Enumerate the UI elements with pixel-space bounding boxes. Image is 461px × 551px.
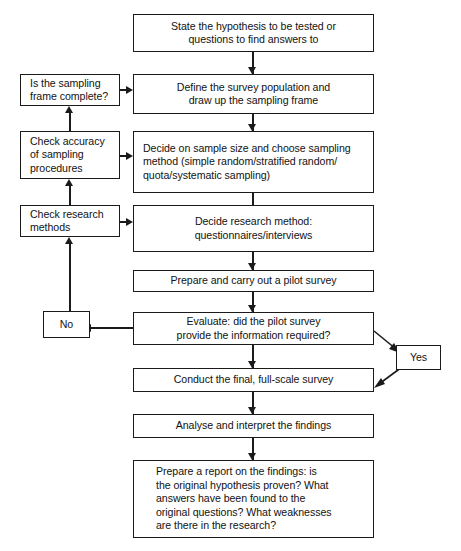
node-methods-check-line-2: methods bbox=[30, 221, 70, 234]
node-define-population-line-2: draw up the sampling frame bbox=[189, 94, 318, 107]
arrowhead-full-survey bbox=[248, 361, 256, 368]
node-accuracy-check-line-2: of sampling bbox=[30, 148, 84, 161]
node-research-method-line-2: questionnaires/interviews bbox=[195, 229, 313, 242]
arrowhead-analyse bbox=[248, 407, 256, 414]
node-sample-size-line-1: Decide on sample size and choose samplin… bbox=[143, 142, 351, 155]
node-evaluate-line-2: provide the information required? bbox=[177, 329, 331, 342]
node-evaluate-line-1: Evaluate: did the pilot survey bbox=[187, 315, 321, 328]
node-pilot-survey[interactable]: Prepare and carry out a pilot survey bbox=[133, 270, 374, 292]
node-report-line-4: original questions? What weaknesses bbox=[156, 506, 332, 519]
arrowhead-report bbox=[248, 453, 256, 460]
node-accuracy-check-line-1: Check accuracy bbox=[30, 135, 105, 148]
node-methods-check[interactable]: Check research methods bbox=[20, 205, 120, 237]
node-full-survey-line-1: Conduct the final, full-scale survey bbox=[174, 373, 334, 386]
node-sampling-frame-check[interactable]: Is the sampling frame complete? bbox=[20, 74, 120, 106]
flowchart-canvas: State the hypothesis to be tested or que… bbox=[0, 0, 461, 551]
connector-no-to-methods bbox=[69, 243, 71, 311]
node-sampling-frame-check-line-2: frame complete? bbox=[30, 90, 108, 103]
node-analyse[interactable]: Analyse and interpret the findings bbox=[133, 414, 374, 438]
node-methods-check-line-1: Check research bbox=[30, 208, 104, 221]
node-research-method-line-1: Decide research method: bbox=[195, 215, 312, 228]
arrowhead-pilot bbox=[248, 263, 256, 270]
node-accuracy-check[interactable]: Check accuracy of sampling procedures bbox=[20, 131, 120, 179]
connector-methods-to-accuracy bbox=[69, 185, 71, 206]
node-sample-size[interactable]: Decide on sample size and choose samplin… bbox=[133, 131, 374, 193]
node-sample-size-line-3: quota/systematic sampling) bbox=[143, 169, 270, 182]
node-sample-size-line-2: method (simple random/stratified random/ bbox=[143, 155, 337, 168]
arrowhead-sample bbox=[248, 124, 256, 131]
node-analyse-line-1: Analyse and interpret the findings bbox=[176, 419, 332, 432]
connector-accuracy-to-frame-check bbox=[69, 112, 71, 131]
node-report-line-5: are there in the research? bbox=[156, 519, 276, 532]
node-report-line-1: Prepare a report on the findings: is bbox=[156, 465, 317, 478]
node-define-population[interactable]: Define the survey population and draw up… bbox=[133, 74, 374, 114]
node-full-survey[interactable]: Conduct the final, full-scale survey bbox=[133, 368, 374, 392]
arrowhead-define bbox=[248, 67, 256, 74]
node-research-method[interactable]: Decide research method: questionnaires/i… bbox=[133, 205, 374, 252]
arrowhead-evaluate bbox=[248, 305, 256, 312]
arrowhead-accuracy-up bbox=[65, 179, 73, 186]
node-decision-no-label: No bbox=[60, 318, 73, 331]
node-report[interactable]: Prepare a report on the findings: is the… bbox=[133, 460, 374, 538]
node-evaluate[interactable]: Evaluate: did the pilot survey provide t… bbox=[133, 312, 374, 345]
node-sampling-frame-check-line-1: Is the sampling bbox=[30, 77, 101, 90]
arrowhead-define-left bbox=[126, 86, 133, 94]
node-decision-yes-label: Yes bbox=[410, 351, 427, 364]
node-decision-yes[interactable]: Yes bbox=[396, 345, 441, 370]
node-accuracy-check-line-3: procedures bbox=[30, 162, 83, 175]
arrowhead-methods-up bbox=[65, 237, 73, 244]
node-report-line-3: answers have been found to the bbox=[156, 492, 305, 505]
arrowhead-frame-check-up bbox=[65, 106, 73, 113]
node-decision-no[interactable]: No bbox=[43, 311, 90, 338]
node-define-population-line-1: Define the survey population and bbox=[177, 81, 330, 94]
arrowhead-method-left bbox=[126, 218, 133, 226]
connector-evaluate-to-no bbox=[90, 327, 134, 329]
node-report-line-2: the original hypothesis proven? What bbox=[156, 479, 329, 492]
node-hypothesis-line-1: State the hypothesis to be tested or bbox=[171, 20, 336, 33]
node-hypothesis[interactable]: State the hypothesis to be tested or que… bbox=[133, 14, 374, 52]
arrowhead-sample-left bbox=[126, 152, 133, 160]
node-pilot-survey-line-1: Prepare and carry out a pilot survey bbox=[170, 274, 336, 287]
node-hypothesis-line-2: questions to find answers to bbox=[189, 33, 319, 46]
